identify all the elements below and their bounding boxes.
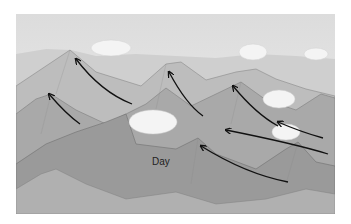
cloud	[272, 124, 300, 140]
cloud	[239, 44, 267, 60]
mountain-scene	[16, 14, 335, 214]
cloud	[91, 40, 131, 56]
cloud	[263, 90, 295, 108]
cloud	[304, 48, 328, 60]
day-label: Day	[152, 156, 170, 167]
cloud	[129, 110, 177, 134]
